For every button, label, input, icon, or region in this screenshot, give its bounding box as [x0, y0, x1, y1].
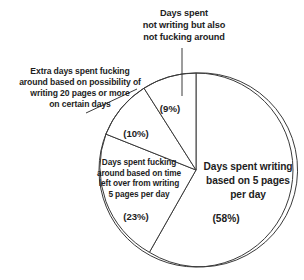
slice-percent-time-left-over: (23%)	[112, 211, 160, 222]
slice-label-extra-days: Extra days spent fucking around based on…	[4, 66, 156, 110]
slice-percent-not-writing: (9%)	[148, 103, 192, 114]
slice-percent-extra-days: (10%)	[112, 128, 160, 139]
pie-chart: Days spent not writing but also not fuck…	[0, 0, 304, 280]
slice-label-not-writing: Days spent not writing but also not fuck…	[104, 8, 264, 43]
slice-label-writing: Days spent writing based on 5 pages per …	[196, 160, 300, 201]
slice-percent-writing: (58%)	[202, 213, 250, 224]
slice-label-time-left-over: Days spent fucking around based on time …	[86, 157, 192, 199]
